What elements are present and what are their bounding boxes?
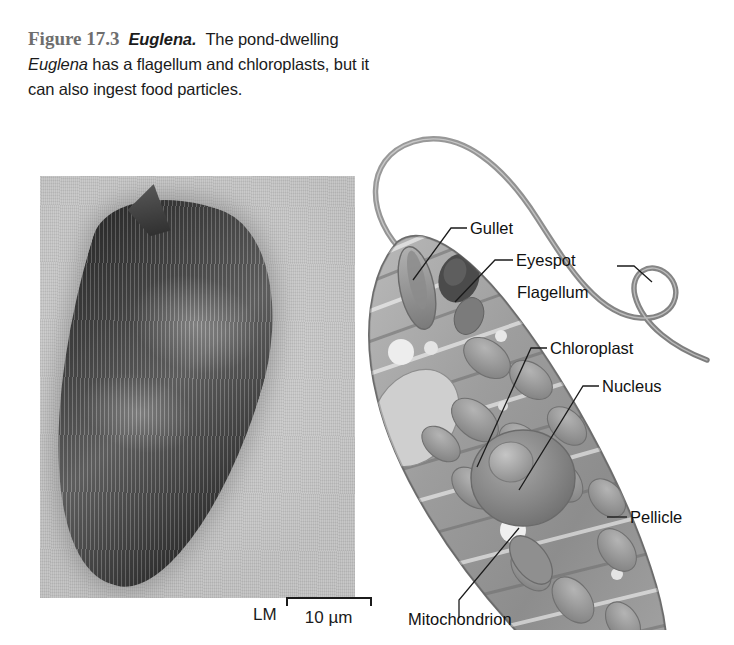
label-nucleus: Nucleus (602, 377, 662, 395)
label-flagellum: Flagellum (517, 283, 589, 301)
label-pellicle: Pellicle (630, 508, 682, 526)
euglena-diagram-svg (355, 30, 734, 630)
scale-bar-value: 10 µm (305, 608, 353, 628)
nucleolus (489, 442, 533, 482)
label-eyespot: Eyespot (516, 251, 576, 269)
figure-caption: Figure 17.3 Euglena. The pond-dwelling E… (28, 26, 378, 102)
caption-organism-inline: Euglena (28, 55, 88, 73)
scale-bar-group: LM 10 µm (253, 597, 372, 628)
figure-17-3: Figure 17.3 Euglena. The pond-dwelling E… (0, 0, 734, 645)
caption-text-part1: The pond-dwelling (205, 30, 338, 48)
euglena-cell-body (355, 210, 673, 630)
microscopy-technique-label: LM (253, 597, 277, 625)
label-mitochondrion: Mitochondrion (408, 610, 512, 628)
label-chloroplast: Chloroplast (550, 339, 633, 357)
figure-number: Figure 17.3 (28, 28, 119, 49)
euglena-diagram: Gullet Eyespot Flagellum Chloroplast Nuc… (355, 30, 734, 630)
label-gullet: Gullet (470, 219, 513, 237)
figure-organism-name: Euglena. (128, 30, 196, 48)
light-micrograph-panel (40, 176, 355, 598)
